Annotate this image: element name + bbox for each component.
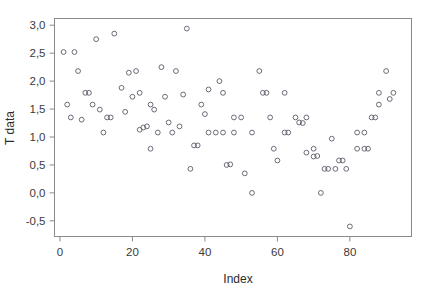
x-tick-label: 60: [271, 246, 284, 258]
data-point-marker: [119, 85, 124, 90]
data-point-marker: [333, 166, 338, 171]
data-point-marker: [61, 50, 66, 55]
data-point-marker: [257, 69, 262, 74]
y-tick-label: 1,0: [30, 131, 46, 143]
scatter-plot-figure: 020406080 -0,50,00,51,01,52,02,53,0 Inde…: [0, 0, 424, 299]
data-point-marker: [123, 109, 128, 114]
data-point-marker: [293, 115, 298, 120]
data-point-marker: [130, 94, 135, 99]
data-point-marker: [232, 115, 237, 120]
data-point-marker: [318, 191, 323, 196]
data-point-marker: [232, 130, 237, 135]
data-point-marker: [170, 130, 175, 135]
data-point-marker: [250, 191, 255, 196]
data-point-marker: [311, 146, 316, 151]
data-point-marker: [199, 102, 204, 107]
data-point-marker: [72, 50, 77, 55]
data-point-marker: [347, 224, 352, 229]
data-point-marker: [391, 90, 396, 95]
data-point-marker: [195, 143, 200, 148]
x-tick-label: 0: [57, 246, 63, 258]
data-point-marker: [184, 26, 189, 31]
data-point-marker: [148, 102, 153, 107]
data-point-marker: [68, 115, 73, 120]
data-point-marker: [355, 146, 360, 151]
data-point-marker: [90, 102, 95, 107]
x-tick-label: 40: [199, 246, 212, 258]
data-point-marker: [97, 107, 102, 112]
data-point-marker: [387, 97, 392, 102]
data-point-layer: [61, 26, 396, 229]
y-tick-label: 2,0: [30, 75, 46, 87]
data-point-marker: [206, 130, 211, 135]
y-tick-label: -0,5: [26, 215, 46, 227]
data-point-marker: [137, 90, 142, 95]
y-tick-label: 3,0: [30, 19, 46, 31]
data-point-marker: [268, 115, 273, 120]
y-tick-label: 1,5: [30, 103, 46, 115]
data-point-marker: [239, 115, 244, 120]
y-axis-ticks: -0,50,00,51,01,52,02,53,0: [26, 19, 55, 227]
y-axis-title: T data: [3, 111, 17, 145]
data-point-marker: [326, 166, 331, 171]
data-point-marker: [65, 102, 70, 107]
data-point-marker: [376, 102, 381, 107]
y-tick-label: 0,5: [30, 159, 46, 171]
data-point-marker: [271, 146, 276, 151]
data-point-marker: [221, 130, 226, 135]
x-axis-title: Index: [223, 272, 252, 286]
data-point-marker: [217, 79, 222, 84]
data-point-marker: [242, 171, 247, 176]
data-point-marker: [159, 65, 164, 70]
data-point-marker: [79, 117, 84, 122]
plot-canvas: 020406080 -0,50,00,51,01,52,02,53,0 Inde…: [0, 0, 424, 299]
data-point-marker: [174, 69, 179, 74]
data-point-marker: [181, 92, 186, 97]
data-point-marker: [221, 90, 226, 95]
data-point-marker: [148, 146, 153, 151]
data-point-marker: [304, 115, 309, 120]
data-point-marker: [152, 107, 157, 112]
data-point-marker: [206, 87, 211, 92]
x-axis-ticks: 020406080: [57, 237, 357, 258]
data-point-marker: [101, 130, 106, 135]
y-tick-label: 0,0: [30, 187, 46, 199]
data-point-marker: [362, 130, 367, 135]
plot-frame-rect: [55, 19, 412, 237]
data-point-marker: [282, 90, 287, 95]
data-point-marker: [108, 115, 113, 120]
data-point-marker: [304, 150, 309, 155]
y-tick-label: 2,5: [30, 47, 46, 59]
data-point-marker: [76, 69, 81, 74]
data-point-marker: [134, 69, 139, 74]
data-point-marker: [203, 112, 208, 117]
x-tick-label: 20: [126, 246, 139, 258]
data-point-marker: [250, 130, 255, 135]
data-point-marker: [166, 120, 171, 125]
data-point-marker: [163, 94, 168, 99]
data-point-marker: [344, 166, 349, 171]
x-tick-label: 80: [343, 246, 356, 258]
data-point-marker: [94, 37, 99, 42]
plot-frame: [55, 19, 412, 237]
data-point-marker: [384, 69, 389, 74]
data-point-marker: [87, 90, 92, 95]
data-point-marker: [355, 130, 360, 135]
data-point-marker: [155, 130, 160, 135]
data-point-marker: [177, 124, 182, 129]
data-point-marker: [213, 130, 218, 135]
data-point-marker: [376, 90, 381, 95]
data-point-marker: [286, 130, 291, 135]
data-point-marker: [329, 136, 334, 141]
data-point-marker: [126, 70, 131, 75]
data-point-marker: [275, 158, 280, 163]
data-point-marker: [188, 166, 193, 171]
data-point-marker: [112, 31, 117, 36]
